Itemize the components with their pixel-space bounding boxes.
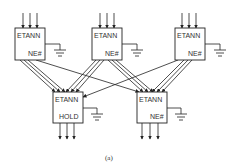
chip-pin-label: NE# [28,50,42,57]
ground-icon [83,108,103,120]
output-arrows-etann-5 [142,123,158,139]
chip-title: ETANN [94,32,117,39]
input-arrows-etann-2 [100,13,114,28]
etann-chip-2: ETANN NE# [92,28,122,60]
etann-chip-1: ETANN NE# [15,28,45,60]
chip-pin-label: NE# [150,113,164,120]
interconnect-wires [20,60,192,97]
chip-pin-label: NE# [188,50,202,57]
etann-network-diagram: ETANN NE# ETANN NE# ETANN NE# ETANN HOLD… [0,0,236,163]
etann-chip-3: ETANN NE# [175,28,205,60]
chip-title: ETANN [55,96,78,103]
input-arrows-etann-3 [182,13,196,28]
ground-icon [167,108,187,120]
chip-pin-label: NE# [105,50,119,57]
chip-title: ETANN [177,32,200,39]
output-arrows-etann-4 [60,123,74,139]
input-arrows-etann-1 [23,13,37,28]
etann-chip-4: ETANN HOLD [53,92,83,123]
chip-title: ETANN [139,96,162,103]
figure-caption: (a) [105,154,113,162]
etann-chip-5: ETANN NE# [137,92,167,123]
ground-icon [122,44,143,56]
chip-title: ETANN [17,32,40,39]
chip-pin-label: HOLD [59,113,78,120]
ground-icon [45,44,66,56]
ground-icon [205,44,226,56]
